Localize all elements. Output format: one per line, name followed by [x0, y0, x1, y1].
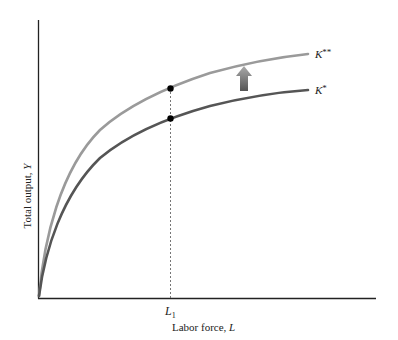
- label-k-star: K*: [314, 83, 327, 96]
- x-axis-label: Labor force, L: [172, 321, 235, 333]
- point-k-star-l1: [167, 115, 173, 121]
- tick-label-l1: L1: [164, 304, 176, 320]
- label-k-double-star: K**: [314, 47, 332, 60]
- shift-up-arrow-icon: [236, 66, 252, 91]
- production-function-diagram: K** K* L1 Labor force, L Total output, Y: [0, 0, 398, 340]
- point-k-double-star-l1: [167, 85, 173, 91]
- curve-k-star: [39, 90, 308, 296]
- curve-k-double-star: [39, 54, 308, 296]
- y-axis-label: Total output, Y: [21, 162, 33, 229]
